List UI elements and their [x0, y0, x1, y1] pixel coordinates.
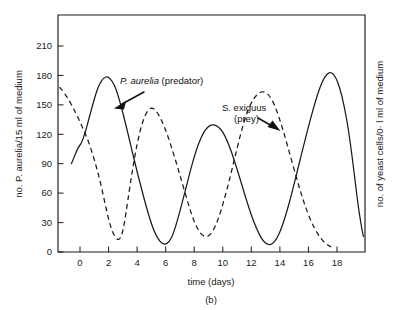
prey-role-text: (prey)	[234, 113, 259, 124]
y-tick-label: 180	[36, 70, 52, 81]
x-tick-label: 16	[303, 257, 314, 268]
prey-curve-path	[59, 87, 334, 248]
x-tick-label: 4	[134, 257, 139, 268]
x-tick-label: 8	[192, 257, 197, 268]
y-tick-label: 210	[36, 40, 52, 51]
predator-prey-chart: 0 30 60 90 120 150 180 210 0 2 4	[0, 0, 399, 310]
y-tick-label: 90	[41, 158, 52, 169]
predator-role-text: (predator)	[159, 75, 203, 86]
y-tick-label: 120	[36, 129, 52, 140]
annotation-predator: P. aurelia (predator)	[114, 75, 203, 110]
right-axis-title: no. of yeast cells/0· l ml of medium	[374, 61, 385, 207]
x-tick-label: 18	[332, 257, 343, 268]
series-predator-p-aurelia	[71, 73, 363, 245]
predator-annotation-text: P. aurelia (predator)	[120, 75, 203, 86]
left-axis-title-suffix: /15 ml of medium	[13, 70, 24, 143]
left-axis-species: P. aurelia	[13, 142, 24, 182]
x-axis-tick-labels: 0 2 4 6 8 10 12 14 16 18	[77, 257, 342, 268]
prey-species-name: S. exiguus	[222, 102, 267, 113]
x-tick-label: 14	[275, 257, 286, 268]
x-tick-label: 6	[163, 257, 168, 268]
x-axis-title: time (days)	[188, 276, 235, 287]
left-axis-title: no. P. aurelia/15 ml of medium	[13, 70, 24, 198]
y-axis-tick-labels: 0 30 60 90 120 150 180 210	[36, 40, 52, 257]
x-tick-label: 2	[106, 257, 111, 268]
left-axis-title-prefix: no.	[13, 182, 24, 198]
y-tick-label: 0	[47, 246, 52, 257]
y-tick-label: 60	[41, 187, 52, 198]
panel-caption: (b)	[205, 294, 217, 305]
plot-frame	[58, 15, 365, 252]
y-tick-label: 150	[36, 99, 52, 110]
x-tick-label: 10	[218, 257, 229, 268]
x-axis-ticks	[80, 247, 337, 253]
predator-species-name: P. aurelia	[120, 75, 159, 86]
prey-arrow-head	[268, 121, 281, 131]
y-tick-label: 30	[41, 217, 52, 228]
series-prey-s-exiguus	[59, 87, 334, 248]
x-tick-label: 12	[246, 257, 257, 268]
x-tick-label: 0	[77, 257, 82, 268]
y-axis-ticks	[58, 46, 64, 252]
figure-panel-b: 0 30 60 90 120 150 180 210 0 2 4	[0, 0, 399, 310]
annotation-prey: S. exiguus (prey)	[222, 102, 281, 131]
predator-curve-path	[71, 73, 363, 245]
